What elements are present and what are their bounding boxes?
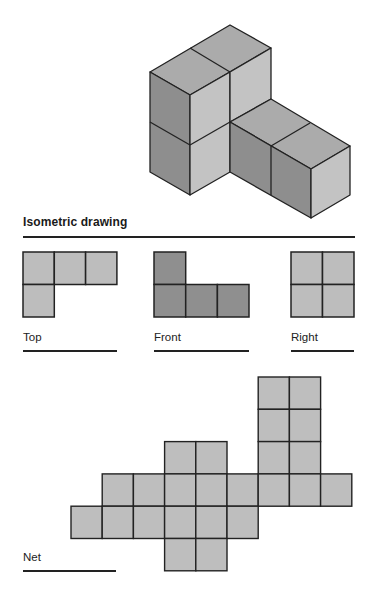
net-cell	[289, 409, 320, 441]
net-cell	[196, 442, 227, 474]
net-cell	[165, 539, 196, 571]
net-cell	[258, 409, 289, 441]
net-cell	[102, 506, 133, 538]
net-cell	[258, 474, 289, 506]
net-cell	[258, 377, 289, 409]
net-cell	[227, 506, 258, 538]
net-cell	[165, 506, 196, 538]
net-cell	[196, 474, 227, 506]
net-cell	[71, 506, 102, 538]
net-cell	[133, 474, 164, 506]
net-cell	[289, 474, 320, 506]
net-cell	[133, 506, 164, 538]
net-diagram	[0, 0, 371, 598]
net-label: Net	[23, 551, 41, 563]
net-cell	[258, 442, 289, 474]
net-cell	[227, 474, 258, 506]
net-cell	[196, 506, 227, 538]
net-cell	[321, 474, 352, 506]
net-cell	[102, 474, 133, 506]
net-rule	[23, 570, 116, 572]
net-cell	[165, 442, 196, 474]
net-cell	[289, 442, 320, 474]
net-cell	[196, 539, 227, 571]
net-cell	[165, 474, 196, 506]
net-cell	[289, 377, 320, 409]
